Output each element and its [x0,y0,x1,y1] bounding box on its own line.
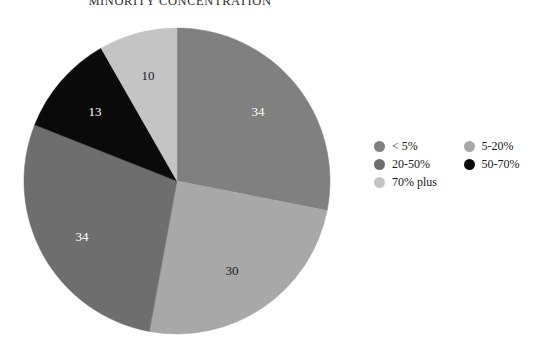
legend-item-label: 5-20% [482,140,514,152]
legend-item-label: 70% plus [392,176,437,188]
legend-item[interactable]: 50-70% [464,156,533,172]
pie-slice[interactable] [177,28,330,211]
pie-slice-value-label: 10 [142,68,155,83]
pie-slice-value-label: 34 [76,229,90,244]
pie-slice-group [24,28,330,334]
pie-slice-value-label: 34 [252,104,266,119]
legend-grid: < 5%5-20%20-50%50-70%70% plus [374,138,532,190]
legend-swatch-icon [374,177,385,188]
legend-item[interactable]: 5-20% [464,138,533,154]
legend-item-label: 50-70% [482,158,520,170]
pie-slice-value-label: 13 [89,104,102,119]
chart-legend: < 5%5-20%20-50%50-70%70% plus [374,138,532,190]
legend-swatch-icon [464,141,475,152]
legend-item[interactable]: 70% plus [374,174,450,190]
legend-item[interactable]: 20-50% [374,156,450,172]
legend-item-label: < 5% [392,140,418,152]
legend-spacer [464,174,533,190]
pie-slice-value-label: 30 [226,263,239,278]
legend-item[interactable]: < 5% [374,138,450,154]
pie-chart-svg: 3430341310 [0,0,360,355]
legend-swatch-icon [374,141,385,152]
pie-chart-area: 3430341310 [0,0,360,355]
legend-swatch-icon [374,159,385,170]
legend-swatch-icon [464,159,475,170]
legend-item-label: 20-50% [392,158,430,170]
pie-chart-figure: MINORITY CONCENTRATION 3430341310 < 5%5-… [0,0,539,355]
